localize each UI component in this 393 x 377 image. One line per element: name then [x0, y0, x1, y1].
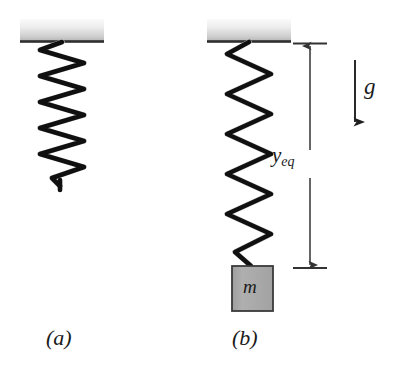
spring-relaxed — [40, 42, 84, 190]
displacement-label-subscript: eq — [281, 154, 294, 169]
ceiling-support-b — [207, 19, 291, 42]
spring-stretched — [227, 42, 271, 266]
diagram-canvas — [0, 0, 393, 377]
mass-label: m — [243, 276, 257, 298]
gravity-label: g — [364, 74, 376, 100]
panel-a-group — [20, 19, 104, 190]
displacement-annotation — [293, 44, 327, 269]
displacement-label: yeq — [272, 143, 295, 170]
spring-wire-b — [227, 42, 271, 266]
spring-mass-diagram: g yeq m (a) (b) — [0, 0, 393, 377]
displacement-label-base: y — [272, 143, 281, 167]
panel-caption-a: (a) — [46, 325, 72, 351]
panel-caption-b: (b) — [232, 325, 258, 351]
ceiling-support-a — [20, 19, 104, 42]
spring-wire-a — [40, 42, 84, 186]
